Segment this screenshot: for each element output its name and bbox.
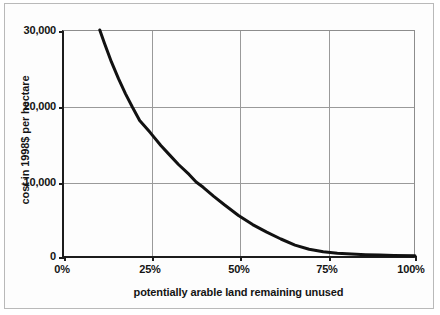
- y-tick-label-30000: 30,000: [24, 25, 56, 36]
- tick-y-20000: [59, 107, 64, 109]
- tick-y-30000: [59, 31, 64, 33]
- tick-x-25: [152, 256, 154, 261]
- tick-x-0: [64, 256, 66, 261]
- x-tick-label-100: 100%: [397, 264, 424, 275]
- plot-area: [62, 30, 415, 258]
- x-tick-label-0: 0%: [54, 264, 70, 275]
- gridline-x-50: [240, 31, 241, 256]
- tick-x-50: [240, 256, 242, 261]
- x-tick-label-75: 75%: [316, 264, 337, 275]
- gridline-x-25: [152, 31, 153, 256]
- x-tick-label-group: 0% 25% 50% 75% 100%: [0, 264, 440, 280]
- tick-y-10000: [59, 183, 64, 185]
- x-tick-label-50: 50%: [228, 264, 249, 275]
- tick-x-100: [415, 256, 417, 261]
- y-tick-label-0: 0: [50, 251, 56, 262]
- gridline-x-75: [329, 31, 330, 256]
- gridline-y-20000: [64, 107, 414, 108]
- x-tick-label-25: 25%: [139, 264, 160, 275]
- x-axis-title: potentially arable land remaining unused: [62, 286, 415, 298]
- gridline-y-10000: [64, 183, 414, 184]
- y-axis-title: cost in 1998$ per hectare: [19, 50, 31, 230]
- tick-x-75: [329, 256, 331, 261]
- chart-canvas: 30,000 20,000 10,000 0 0% 25% 50% 75% 10…: [0, 0, 440, 315]
